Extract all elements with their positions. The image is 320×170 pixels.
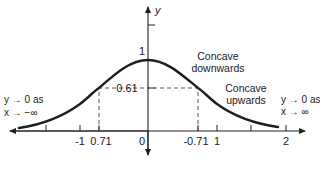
left-limit-label-line2: x → −∞ xyxy=(4,107,38,118)
bell-curve-figure: y 1 0.61 0 -1 0.71 -0.71 1 2 Concave dow… xyxy=(0,0,320,170)
plot-svg: y 1 0.61 0 -1 0.71 -0.71 1 2 Concave dow… xyxy=(0,0,320,170)
y-tick-label-061: 0.61 xyxy=(116,82,137,94)
x-tick-label-d: 1 xyxy=(214,135,220,147)
y-tick-label-1: 1 xyxy=(139,45,145,57)
concave-down-label-line2: downwards xyxy=(191,62,244,74)
right-limit-label-line1: y → 0 as xyxy=(281,94,320,105)
concave-down-label-line1: Concave xyxy=(197,50,239,62)
inflection-guide-left xyxy=(99,88,148,131)
concave-up-label-line1: Concave xyxy=(225,82,267,94)
concave-up-label-line2: upwards xyxy=(226,94,266,106)
y-axis-label: y xyxy=(154,4,162,16)
right-limit-label-line2: x → ∞ xyxy=(281,106,309,117)
x-tick-label-e: 2 xyxy=(283,135,289,147)
origin-label: 0 xyxy=(139,135,145,147)
x-tick-label-b: 0.71 xyxy=(90,135,111,147)
x-tick-label-a: -1 xyxy=(75,135,85,147)
left-limit-label-line1: y → 0 as xyxy=(4,94,43,105)
inflection-guide-right xyxy=(148,88,198,131)
x-tick-label-c: -0.71 xyxy=(183,135,208,147)
